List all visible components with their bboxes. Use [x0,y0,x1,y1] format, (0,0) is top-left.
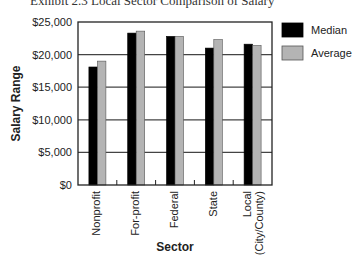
legend-swatch-average [282,46,303,60]
x-tick-label: Nonprofit [90,191,102,236]
y-tick-label: $20,000 [32,49,72,61]
bar-average [175,36,184,185]
bar-median [205,48,214,185]
bar-average [136,31,145,185]
y-axis-title: Salary Range [9,65,23,141]
y-tick-label: $15,000 [32,81,72,93]
bar-median [167,36,176,185]
y-tick-label: $0 [60,179,72,191]
y-tick-label: $25,000 [32,16,72,28]
bar-average [214,40,223,185]
x-tick-label: Federal [168,191,180,228]
bar-median [128,33,137,185]
legend-swatch-median [282,23,303,37]
bar-median [89,67,98,185]
legend-label-average: Average [311,47,352,59]
y-tick-label: $5,000 [38,146,72,158]
bar-average [253,45,262,185]
x-tick-label: Local(City/County) [241,191,265,255]
bar-median [244,44,253,185]
y-tick-label: $10,000 [32,114,72,126]
bar-chart: $0$5,000$10,000$15,000$20,000$25,000Nonp… [0,0,361,263]
x-tick-label: State [207,191,219,217]
x-tick-label: For-profit [129,191,141,236]
legend-label-median: Median [311,24,347,36]
x-axis-title: Sector [156,240,194,254]
bar-average [97,61,106,185]
